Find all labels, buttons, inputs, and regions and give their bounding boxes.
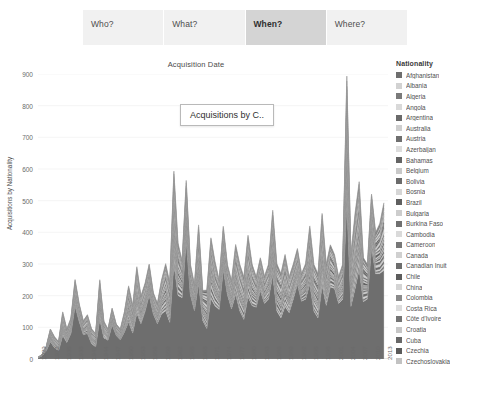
tab-when[interactable]: When? (246, 10, 327, 45)
legend-item-label: Cuba (406, 337, 421, 344)
legend-item[interactable]: Colombia (396, 292, 479, 303)
y-tick-label: 400 (22, 229, 33, 236)
x-tick-label: 1995 (312, 346, 319, 360)
y-tick-label: 600 (22, 166, 33, 173)
legend-item[interactable]: Cameroon (396, 240, 479, 251)
legend-item[interactable]: Australia (396, 123, 479, 134)
legend-swatch-icon (396, 327, 402, 333)
legend-item[interactable]: Cambodia (396, 229, 479, 240)
legend-title: Nationality (396, 60, 479, 67)
legend-swatch-icon (396, 115, 402, 121)
x-tick-label: 1989 (287, 346, 294, 360)
x-tick-label: 1977 (238, 346, 245, 360)
x-tick-label: 1950 (127, 346, 134, 360)
x-tick-label: 1959 (164, 346, 171, 360)
legend-item[interactable]: Bosnia (396, 187, 479, 198)
legend-swatch-icon (396, 231, 402, 237)
y-tick-label: 800 (22, 102, 33, 109)
legend-item-label: Côte d'Ivoire (406, 315, 441, 322)
legend-item[interactable]: Bulgaria (396, 208, 479, 219)
legend-item[interactable]: Argentina (396, 112, 479, 123)
legend-item[interactable]: Afghanistan (396, 70, 479, 81)
x-tick-label: 1956 (151, 346, 158, 360)
legend-item[interactable]: Cuba (396, 335, 479, 346)
tab-what[interactable]: What? (164, 10, 245, 45)
chart-floating-label[interactable]: Acquisitions by C.. (180, 104, 274, 126)
legend-swatch-icon (396, 83, 402, 89)
x-tick-label: 1971 (213, 346, 220, 360)
legend-swatch-icon (396, 199, 402, 205)
tab-where[interactable]: Where? (327, 10, 407, 45)
y-tick-label: 0 (29, 356, 33, 363)
legend-swatch-icon (396, 136, 402, 142)
chart-title: Acquisition Date (0, 60, 392, 69)
legend-item-label: Bolivia (406, 178, 425, 185)
legend-item-label: Czechoslovakia (406, 358, 450, 365)
legend-item[interactable]: Czechoslovakia (396, 356, 479, 367)
legend-swatch-icon (396, 168, 402, 174)
y-axis-label: Acquisitions by Nationality (6, 134, 13, 254)
legend-item-label: Bahamas (406, 157, 433, 164)
legend-swatch-icon (396, 274, 402, 280)
legend-item[interactable]: Azerbaijan (396, 144, 479, 155)
y-tick-label: 900 (22, 71, 33, 78)
legend-item-label: Algeria (406, 93, 426, 100)
legend-swatch-icon (396, 157, 402, 163)
legend-swatch-icon (396, 295, 402, 301)
legend-swatch-icon (396, 305, 402, 311)
legend-item-label: Argentina (406, 114, 433, 121)
question-tab-bar[interactable]: Who?What?When?Where? (83, 10, 407, 45)
x-tick-label: 1974 (225, 346, 232, 360)
tab-label: Where? (335, 19, 365, 29)
legend-item[interactable]: Bahamas (396, 155, 479, 166)
x-tick-label: 1935 (65, 346, 72, 360)
legend-item[interactable]: Costa Rica (396, 303, 479, 314)
legend-item[interactable]: Austria (396, 134, 479, 145)
tab-who[interactable]: Who? (83, 10, 164, 45)
legend[interactable]: Nationality AfghanistanAlbaniaAlgeriaAng… (396, 60, 479, 392)
legend-item[interactable]: Angola (396, 102, 479, 113)
legend-item[interactable]: Algeria (396, 91, 479, 102)
legend-swatch-icon (396, 242, 402, 248)
legend-item[interactable]: Bolivia (396, 176, 479, 187)
legend-item-label: Costa Rica (406, 305, 437, 312)
legend-item[interactable]: Canada (396, 250, 479, 261)
legend-item[interactable]: Burkina Faso (396, 218, 479, 229)
x-tick-label: 1941 (90, 346, 97, 360)
legend-item[interactable]: Albania (396, 81, 479, 92)
legend-item-label: Albania (406, 82, 427, 89)
x-tick-label: 1929 (40, 346, 47, 360)
tab-label: Who? (91, 19, 114, 29)
legend-item-label: Canada (406, 252, 428, 259)
x-tick-label: 1980 (250, 346, 257, 360)
legend-item[interactable]: Croatia (396, 324, 479, 335)
legend-item-label: Colombia (406, 294, 433, 301)
legend-swatch-icon (396, 104, 402, 110)
legend-item-list[interactable]: AfghanistanAlbaniaAlgeriaAngolaArgentina… (396, 70, 479, 367)
legend-item[interactable]: Czechia (396, 345, 479, 356)
x-tick-label: 2004 (349, 346, 356, 360)
legend-item[interactable]: Canadian Inuit (396, 261, 479, 272)
y-tick-label: 500 (22, 197, 33, 204)
x-tick-label: 1998 (324, 346, 331, 360)
legend-item[interactable]: Chile (396, 271, 479, 282)
legend-item-label: Bosnia (406, 188, 425, 195)
x-tick-label: 1962 (176, 346, 183, 360)
legend-item-label: Angola (406, 104, 426, 111)
x-tick-label: 1992 (300, 346, 307, 360)
legend-item-label: Chile (406, 273, 420, 280)
legend-item[interactable]: Belgium (396, 165, 479, 176)
legend-item[interactable]: China (396, 282, 479, 293)
legend-item-label: Burkina Faso (406, 220, 443, 227)
y-tick-label: 100 (22, 324, 33, 331)
legend-item-label: Austria (406, 135, 426, 142)
x-tick-label: 1968 (201, 346, 208, 360)
x-tick-label: 2010 (374, 346, 381, 360)
legend-item[interactable]: Côte d'Ivoire (396, 314, 479, 325)
legend-item-label: Australia (406, 125, 431, 132)
legend-swatch-icon (396, 316, 402, 322)
x-tick-label: 2001 (337, 346, 344, 360)
legend-item-label: Cambodia (406, 231, 435, 238)
legend-item[interactable]: Brazil (396, 197, 479, 208)
x-tick-label: 2013 (386, 346, 393, 360)
